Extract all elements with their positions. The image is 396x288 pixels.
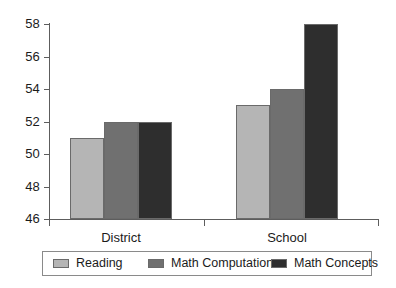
bar-school-math-concepts <box>304 24 338 219</box>
x-axis-category-label: District <box>61 231 181 245</box>
y-axis-tick-label: 46 <box>6 212 40 225</box>
y-axis-tick <box>44 24 50 25</box>
y-axis-tick <box>44 154 50 155</box>
legend-swatch-icon <box>148 259 164 268</box>
y-axis-tick-label: 50 <box>6 147 40 160</box>
bar-chart: 46485052545658 DistrictSchool ReadingMat… <box>0 0 396 288</box>
y-axis-tick-label: 52 <box>6 115 40 128</box>
legend-item-label: Reading <box>76 257 123 270</box>
y-axis-tick <box>44 89 50 90</box>
legend-item-reading[interactable]: Reading <box>53 257 123 270</box>
y-axis-tick-label: 48 <box>6 180 40 193</box>
bar-school-math-computation <box>270 89 304 219</box>
x-axis-tick <box>49 220 50 226</box>
x-axis-tick <box>204 220 205 226</box>
bar-district-math-concepts <box>138 122 172 220</box>
x-axis-line <box>49 219 379 220</box>
bar-district-reading <box>70 138 104 219</box>
legend-item-label: Math Concepts <box>294 257 378 270</box>
legend-swatch-icon <box>53 259 69 268</box>
x-axis-category-label: School <box>227 231 347 245</box>
y-axis-tick <box>44 187 50 188</box>
legend-item-math-concepts[interactable]: Math Concepts <box>271 257 378 270</box>
legend-item-math-computation[interactable]: Math Computation <box>148 257 273 270</box>
y-axis-tick <box>44 122 50 123</box>
legend-item-label: Math Computation <box>171 257 273 270</box>
bar-district-math-computation <box>104 122 138 220</box>
legend-swatch-icon <box>271 259 287 268</box>
bar-school-reading <box>236 105 270 219</box>
y-axis-tick-label: 54 <box>6 82 40 95</box>
y-axis-tick-label: 58 <box>6 17 40 30</box>
y-axis-tick <box>44 57 50 58</box>
y-axis-tick-label: 56 <box>6 50 40 63</box>
x-axis-tick <box>378 220 379 226</box>
chart-legend: ReadingMath ComputationMath Concepts <box>42 251 372 276</box>
